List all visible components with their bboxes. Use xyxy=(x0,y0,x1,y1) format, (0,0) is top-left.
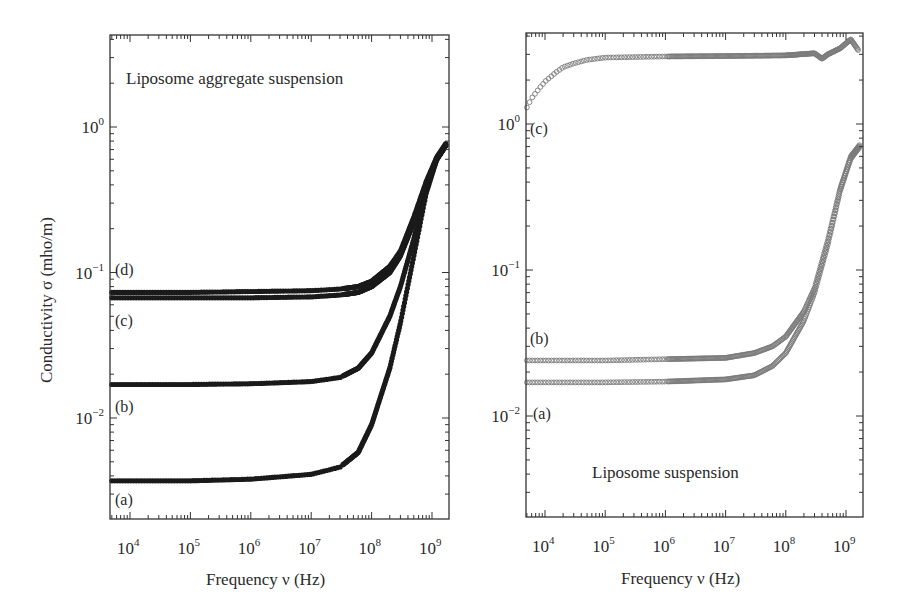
left-y-tick-labels: 10010−110−2 xyxy=(75,115,104,428)
x-tick-label: 106 xyxy=(238,536,261,558)
figure: 104105106107108109 10010−110−2 Liposome … xyxy=(0,0,897,613)
right-panel: 104105106107108109 10010−110−2 (c) (b) (… xyxy=(491,33,863,588)
series-d xyxy=(109,141,448,295)
right-y-tick-labels: 10010−110−2 xyxy=(491,112,520,426)
right-label-b: (b) xyxy=(530,330,549,348)
right-x-axis-label: Frequency ν (Hz) xyxy=(621,569,740,588)
x-tick-label: 107 xyxy=(713,534,736,556)
x-tick-label: 108 xyxy=(359,536,382,558)
left-panel: 104105106107108109 10010−110−2 Liposome … xyxy=(37,35,449,589)
left-label-b: (b) xyxy=(115,398,134,416)
x-tick-label: 107 xyxy=(298,536,321,558)
x-tick-label: 105 xyxy=(592,534,615,556)
right-axis-ticks xyxy=(526,33,863,517)
series-a xyxy=(525,145,862,385)
right-x-tick-labels: 104105106107108109 xyxy=(532,534,856,556)
left-data-series xyxy=(109,141,448,483)
left-label-d: (d) xyxy=(115,261,134,279)
y-tick-label: 10−1 xyxy=(75,261,104,283)
left-axis-ticks xyxy=(110,35,449,519)
left-x-tick-labels: 104105106107108109 xyxy=(117,536,442,558)
x-tick-label: 108 xyxy=(773,534,796,556)
right-label-a: (a) xyxy=(533,405,551,423)
series-a xyxy=(109,143,448,484)
x-tick-label: 104 xyxy=(117,536,140,558)
left-label-a: (a) xyxy=(115,491,133,509)
left-x-axis-label: Frequency ν (Hz) xyxy=(206,570,325,589)
y-tick-label: 100 xyxy=(498,112,521,134)
y-tick-label: 100 xyxy=(82,115,105,137)
right-plot-frame xyxy=(526,33,863,517)
series-b xyxy=(525,143,862,363)
right-data-series xyxy=(525,37,862,385)
x-tick-label: 109 xyxy=(419,536,442,558)
x-tick-label: 109 xyxy=(833,534,856,556)
y-axis-label: Conductivity σ (mho/m) xyxy=(37,217,56,383)
left-plot-frame xyxy=(110,35,449,519)
y-tick-label: 10−2 xyxy=(75,406,104,428)
right-label-c: (c) xyxy=(530,120,548,138)
series-c xyxy=(525,37,861,110)
left-panel-title: Liposome aggregate suspension xyxy=(126,69,344,88)
x-tick-label: 106 xyxy=(652,534,675,556)
y-tick-label: 10−1 xyxy=(491,258,520,280)
left-label-c: (c) xyxy=(115,312,133,330)
right-panel-title: Liposome suspension xyxy=(592,463,739,482)
y-tick-label: 10−2 xyxy=(491,404,520,426)
series-c xyxy=(109,143,448,301)
x-tick-label: 105 xyxy=(177,536,200,558)
x-tick-label: 104 xyxy=(532,534,555,556)
